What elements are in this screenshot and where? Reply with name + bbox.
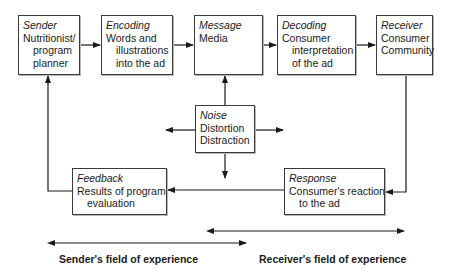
feedback-line: evaluation <box>77 197 162 210</box>
noise-line: Distortion <box>200 122 250 135</box>
sender-box: Sender Nutritionist/ program planner <box>18 15 80 75</box>
arrow-feedback-sender <box>48 76 72 191</box>
response-line: Consumer's reaction <box>289 185 380 198</box>
decoding-line: interpretation <box>282 44 351 57</box>
receiver-box: Receiver Consumer Community <box>376 15 433 75</box>
sender-title: Sender <box>23 19 75 32</box>
decoding-line: of the ad <box>282 57 351 70</box>
sender-line: Nutritionist/ <box>23 32 75 45</box>
encoding-box: Encoding Words and illustrations into th… <box>101 15 173 75</box>
noise-title: Noise <box>200 109 250 122</box>
decoding-line: Consumer <box>282 32 351 45</box>
encoding-line: into the ad <box>106 57 168 70</box>
decoding-box: Decoding Consumer interpretation of the … <box>277 15 356 75</box>
sender-line: program <box>23 44 75 57</box>
message-title: Message <box>199 19 258 32</box>
receiver-line: Consumer <box>381 32 428 45</box>
message-line: Media <box>199 32 258 45</box>
receiver-title: Receiver <box>381 19 428 32</box>
noise-line: Distraction <box>200 134 250 147</box>
response-box: Response Consumer's reaction to the ad <box>284 168 385 215</box>
sender-line: planner <box>23 57 75 70</box>
receiver-line: Community <box>381 44 428 57</box>
arrow-receiver-response <box>386 74 406 192</box>
feedback-line: Results of program <box>77 185 162 198</box>
response-title: Response <box>289 172 380 185</box>
message-box: Message Media <box>194 15 263 75</box>
response-line: to the ad <box>289 197 380 210</box>
encoding-line: Words and <box>106 32 168 45</box>
decoding-title: Decoding <box>282 19 351 32</box>
feedback-title: Feedback <box>77 172 162 185</box>
encoding-title: Encoding <box>106 19 168 32</box>
receiver-field-label: Receiver's field of experience <box>259 253 406 265</box>
sender-field-label: Sender's field of experience <box>59 253 198 265</box>
noise-box: Noise Distortion Distraction <box>195 105 255 153</box>
encoding-line: illustrations <box>106 44 168 57</box>
feedback-box: Feedback Results of program evaluation <box>72 168 167 215</box>
